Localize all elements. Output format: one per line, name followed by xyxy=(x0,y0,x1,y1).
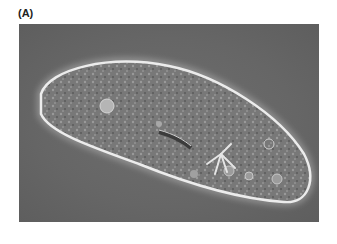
micrograph-image xyxy=(19,24,319,222)
panel-label: (A) xyxy=(18,7,33,19)
paramecium-cell-illustration xyxy=(19,24,319,222)
